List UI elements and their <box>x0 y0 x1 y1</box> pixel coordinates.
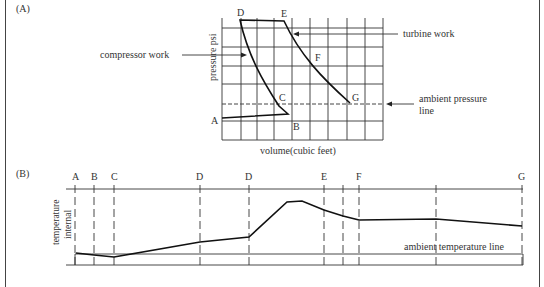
temperature-axis-label: temperature <box>51 200 61 245</box>
pressure-axis-label: pressure psi <box>207 33 218 81</box>
station-c-label: C <box>111 171 118 182</box>
ambient-pressure-arrow-icon <box>386 102 392 107</box>
ambient-pressure-label-line2: line <box>419 105 435 116</box>
station-dividers <box>75 185 522 265</box>
station-f-label: F <box>356 171 362 182</box>
station-d2-label: D <box>245 171 252 182</box>
pv-grid <box>222 18 383 140</box>
point-e-label: E <box>281 8 287 19</box>
station-a-label: A <box>72 171 80 182</box>
point-b-label: B <box>293 121 300 132</box>
point-f-label: F <box>315 52 321 63</box>
panel-a-label: (A) <box>16 3 30 15</box>
ambient-temperature-label: ambient temperature line <box>404 241 505 252</box>
internal-axis-label: internal <box>63 210 73 239</box>
station-b-label: B <box>91 171 98 182</box>
volume-axis-label: volume(cubic feet) <box>260 145 336 157</box>
point-a-label: A <box>211 115 219 126</box>
point-d-label: D <box>237 7 244 18</box>
ambient-pressure-label-line1: ambient pressure <box>419 93 488 104</box>
turbine-work-arrow-icon <box>293 32 299 37</box>
station-e-label: E <box>321 171 327 182</box>
compressor-work-arrow-icon <box>241 53 247 58</box>
turbine-work-label: turbine work <box>403 28 454 39</box>
point-c-label: C <box>279 92 286 103</box>
diagram-canvas: (A) D E F G C B A pressure psi volume(cu… <box>0 0 544 287</box>
point-g-label: G <box>352 92 359 103</box>
panel-b-label: (B) <box>16 168 29 180</box>
compressor-work-label: compressor work <box>100 49 169 60</box>
station-d1-label: D <box>196 171 203 182</box>
station-g-label: G <box>518 171 525 182</box>
